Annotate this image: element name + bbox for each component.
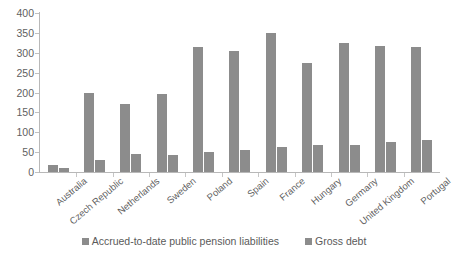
bar <box>240 150 250 172</box>
x-tick-label: France <box>101 176 307 260</box>
x-tick-mark <box>404 173 405 177</box>
x-tick-mark <box>331 173 332 177</box>
y-tick-mark <box>35 112 39 113</box>
bar-group <box>295 13 331 172</box>
bar-group <box>222 13 258 172</box>
y-axis-labels: 400350300250200150100500 <box>0 0 34 260</box>
bar <box>95 160 105 172</box>
bar-group <box>331 13 367 172</box>
y-tick-label: 300 <box>16 48 34 59</box>
y-tick-mark <box>35 172 39 173</box>
legend-label: Accrued-to-date public pension liabiliti… <box>92 236 279 247</box>
y-tick-label: 150 <box>16 107 34 118</box>
bar <box>59 168 69 172</box>
y-tick-label: 0 <box>28 167 34 178</box>
bar-groups <box>40 13 440 172</box>
x-tick-mark <box>295 173 296 177</box>
x-tick-mark <box>149 173 150 177</box>
bar <box>339 43 349 172</box>
bar <box>84 93 94 173</box>
x-tick-mark <box>258 173 259 177</box>
legend-swatch-icon <box>305 238 312 245</box>
y-tick-mark <box>35 132 39 133</box>
y-tick-mark <box>35 53 39 54</box>
y-tick-mark <box>35 73 39 74</box>
chart-legend: Accrued-to-date public pension liabiliti… <box>0 236 448 247</box>
legend-swatch-icon <box>82 238 89 245</box>
bar-group <box>367 13 403 172</box>
bar <box>422 140 432 172</box>
bar <box>204 152 214 172</box>
legend-item[interactable]: Gross debt <box>305 236 366 247</box>
bar-group <box>404 13 440 172</box>
bar <box>277 147 287 172</box>
y-tick-mark <box>35 33 39 34</box>
bar <box>266 33 276 172</box>
y-tick-label: 350 <box>16 28 34 39</box>
x-tick-mark <box>113 173 114 177</box>
y-tick-label: 50 <box>22 147 34 158</box>
bar <box>193 47 203 172</box>
bar <box>350 145 360 172</box>
bar-group <box>113 13 149 172</box>
legend-item[interactable]: Accrued-to-date public pension liabiliti… <box>82 236 279 247</box>
bar-group <box>40 13 76 172</box>
bar <box>229 51 239 172</box>
y-tick-label: 200 <box>16 87 34 98</box>
bar <box>131 154 141 172</box>
x-tick-mark <box>76 173 77 177</box>
bar <box>302 63 312 172</box>
y-tick-mark <box>35 93 39 94</box>
bar-group <box>258 13 294 172</box>
legend-label: Gross debt <box>315 236 366 247</box>
y-tick-label: 100 <box>16 127 34 138</box>
x-tick-mark <box>185 173 186 177</box>
x-axis-labels: AustraliaCzech RepublicNetherlandsSweden… <box>40 176 440 236</box>
y-tick-label: 400 <box>16 8 34 19</box>
bar <box>168 155 178 172</box>
bar <box>375 46 385 172</box>
bar <box>120 104 130 172</box>
bar <box>313 145 323 172</box>
x-tick-mark <box>222 173 223 177</box>
bar-group <box>76 13 112 172</box>
y-tick-mark <box>35 152 39 153</box>
bar <box>411 47 421 172</box>
bar <box>157 94 167 172</box>
bar-group <box>149 13 185 172</box>
x-tick-mark <box>367 173 368 177</box>
bar <box>386 142 396 172</box>
bar-group <box>185 13 221 172</box>
x-axis-line <box>39 172 440 173</box>
bar <box>48 165 58 172</box>
y-tick-label: 250 <box>16 67 34 78</box>
y-tick-mark <box>35 13 39 14</box>
